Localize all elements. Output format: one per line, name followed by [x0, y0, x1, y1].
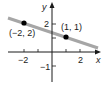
y-axis-arrow-icon: [50, 2, 55, 8]
y-tick-label-2: 2: [44, 19, 49, 29]
x-tick-label-2: 2: [78, 55, 83, 65]
coordinate-plot: −2 2 2 −1 x y (−2, 2) (1, 1): [0, 0, 108, 85]
y-tick-label-neg1: −1: [40, 62, 50, 72]
point-label-neg2-2: (−2, 2): [9, 28, 35, 38]
y-ticks: [52, 24, 56, 66]
x-axis-arrow-icon: [95, 50, 101, 55]
point-neg2-2: [21, 20, 26, 25]
point-label-1-1: (1, 1): [61, 22, 82, 32]
x-axis-label: x: [95, 55, 101, 65]
y-axis-label: y: [41, 2, 47, 12]
point-1-1: [63, 34, 68, 39]
x-tick-label-neg2: −2: [18, 55, 28, 65]
